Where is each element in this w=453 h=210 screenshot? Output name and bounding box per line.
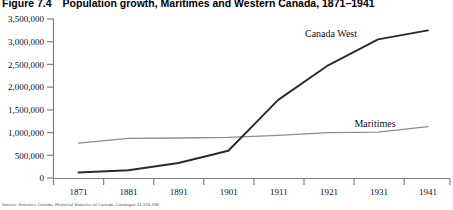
y-tick-label: 3,500,000 [8, 14, 45, 24]
x-axis-labels: 1871 1881 1891 1901 1911 1921 1931 1941 [70, 187, 438, 197]
series-line-maritimes [79, 127, 429, 143]
y-axis-ticks [47, 19, 54, 178]
y-tick-label: 3,000,000 [8, 37, 45, 47]
x-tick-label: 1921 [320, 187, 338, 197]
x-tick-label: 1901 [220, 187, 238, 197]
x-tick-label: 1891 [170, 187, 188, 197]
line-chart-svg: 3,500,000 3,000,000 2,500,000 2,000,000 … [0, 0, 453, 200]
series-label-canada-west: Canada West [305, 28, 357, 39]
x-tick-label: 1931 [370, 187, 388, 197]
x-axis-ticks [54, 179, 451, 186]
y-tick-label: 500,000 [15, 151, 45, 161]
x-tick-label: 1871 [70, 187, 88, 197]
y-tick-label: 2,000,000 [8, 82, 45, 92]
x-tick-label: 1881 [120, 187, 138, 197]
y-axis-labels: 3,500,000 3,000,000 2,500,000 2,000,000 … [8, 14, 45, 183]
series-line-canada-west [79, 30, 429, 172]
source-note: Source: Statistics Canada, Historical St… [2, 202, 453, 208]
y-tick-label: 1,500,000 [8, 105, 45, 115]
y-tick-label: 0 [40, 173, 45, 183]
x-tick-label: 1941 [419, 187, 437, 197]
series-label-maritimes: Maritimes [354, 118, 395, 129]
y-tick-label: 2,500,000 [8, 60, 45, 70]
y-tick-label: 1,000,000 [8, 128, 45, 138]
chart-plot-area: 3,500,000 3,000,000 2,500,000 2,000,000 … [0, 0, 453, 200]
x-tick-label: 1911 [270, 187, 288, 197]
figure-container: Figure 7.4Population growth, Maritimes a… [0, 0, 453, 210]
